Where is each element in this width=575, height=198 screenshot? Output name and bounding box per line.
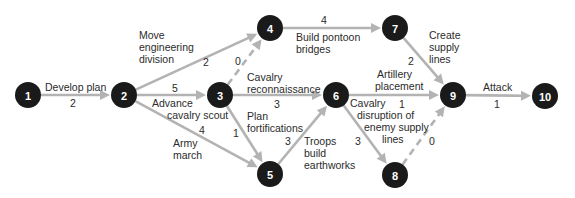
node-3: 3 — [207, 82, 233, 108]
arrowhead-icon — [371, 23, 381, 33]
node-number: 6 — [333, 90, 339, 102]
edge-line — [466, 95, 522, 96]
duration-label-5-6: 3 — [285, 135, 291, 147]
node-9: 9 — [440, 82, 466, 108]
node-6: 6 — [323, 82, 349, 108]
arrowhead-icon — [196, 90, 206, 100]
node-10: 10 — [532, 83, 558, 109]
node-2: 2 — [111, 82, 137, 108]
node-number: 1 — [25, 90, 31, 102]
activity-label-cavalry-disruption-of-enemy-supply-lines: Cavalry disruption of enemy supply lines — [350, 97, 432, 145]
activity-label-artillery-placement: Artillery placement — [375, 68, 424, 92]
duration-label-4-7: 4 — [321, 14, 327, 26]
duration-label-3-4: 0 — [235, 55, 241, 67]
activity-label-build-pontoon-bridges: Build pontoon bridges — [296, 31, 363, 55]
node-number: 10 — [539, 91, 551, 103]
duration-label-6-8: 3 — [355, 135, 361, 147]
node-8: 8 — [382, 162, 408, 188]
node-number: 9 — [450, 90, 456, 102]
activity-label-troops-build-earthworks: Troops build earthworks — [304, 135, 355, 171]
nodes-layer: 12345678910 — [15, 15, 558, 188]
duration-label-8-9: 0 — [429, 135, 435, 147]
node-number: 5 — [267, 169, 273, 181]
node-number: 7 — [392, 23, 398, 35]
activity-label-move-engineering-division: Move engineering division — [139, 29, 197, 65]
node-number: 4 — [267, 23, 274, 35]
network-diagram: Develop plan Move engineering division A… — [0, 0, 575, 198]
activity-label-plan-fortifications: Plan fortifications — [247, 110, 303, 134]
duration-label-2-3: 5 — [172, 82, 178, 94]
duration-label-6-9: 1 — [399, 98, 405, 110]
activity-label-army-march: Army march — [173, 137, 202, 161]
node-number: 3 — [217, 90, 223, 102]
node-number: 2 — [121, 90, 127, 102]
node-7: 7 — [382, 15, 408, 41]
arrowhead-icon — [435, 106, 445, 117]
duration-label-1-2: 2 — [70, 97, 76, 109]
duration-label-7-9: 2 — [408, 55, 414, 67]
activity-label-create-supply-lines: Create supply lines — [429, 29, 463, 65]
activity-label-cavalry-reconnaissance: Cavalry reconnaissance — [247, 71, 321, 95]
duration-label-9-10: 1 — [494, 98, 500, 110]
arrowhead-icon — [521, 91, 531, 101]
activity-label-develop-plan: Develop plan — [45, 81, 106, 93]
arrowhead-icon — [252, 39, 262, 50]
node-1: 1 — [15, 82, 41, 108]
duration-label-2-5: 4 — [199, 124, 205, 136]
node-5: 5 — [257, 161, 283, 187]
node-4: 4 — [257, 15, 283, 41]
activity-label-attack: Attack — [483, 81, 513, 93]
duration-label-2-4: 2 — [203, 56, 209, 68]
duration-label-3-5: 1 — [233, 127, 239, 139]
arrowhead-icon — [429, 90, 439, 100]
node-number: 8 — [392, 170, 398, 182]
duration-label-3-6: 3 — [274, 98, 280, 110]
